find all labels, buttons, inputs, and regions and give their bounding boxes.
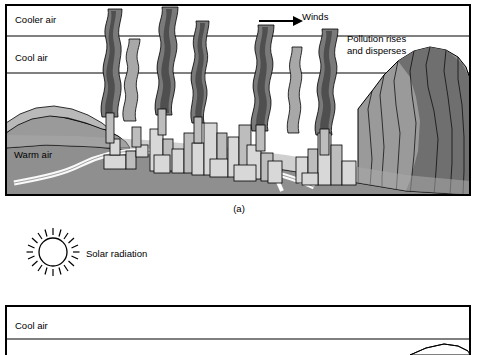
right-arrow-icon — [259, 16, 303, 26]
sun-icon — [22, 228, 84, 276]
panel-b: Cool air — [5, 305, 471, 355]
label-pollution-line2: and disperses — [347, 45, 406, 56]
caption-a: (a) — [0, 203, 478, 214]
label-cooler-air: Cooler air — [15, 14, 56, 25]
panel-b-illustration — [6, 306, 470, 355]
label-solar-radiation: Solar radiation — [86, 248, 147, 259]
label-cool-air: Cool air — [15, 52, 48, 63]
label-winds: Winds — [302, 11, 328, 22]
panel-a: Cooler air Cool air Warm air Winds Pollu… — [5, 4, 471, 196]
figure-root: Cooler air Cool air Warm air Winds Pollu… — [0, 0, 478, 355]
label-panel-b-cool-air: Cool air — [15, 320, 48, 331]
label-warm-air: Warm air — [14, 149, 52, 160]
label-pollution-line1: Pollution rises — [347, 33, 406, 44]
